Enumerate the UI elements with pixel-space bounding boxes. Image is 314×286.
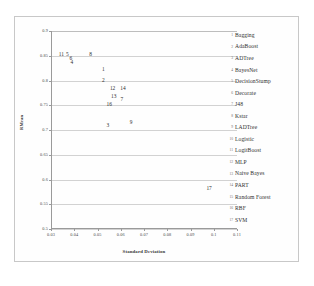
legend-item: 6Decorate [228,88,296,100]
gridline [51,204,237,205]
y-tick-mark [49,204,51,205]
legend-item: 2AdaBoost [228,42,296,54]
x-tick-mark [237,229,238,231]
y-tick-mark [49,180,51,181]
y-tick-label: 0.5 [42,227,48,231]
y-axis-line [51,31,52,229]
legend-key: 11 [228,149,235,153]
y-tick-label: 0.55 [40,202,48,206]
legend-item: 7J48 [228,99,296,111]
legend-item: 16RBF [228,203,296,215]
x-tick-mark [51,229,52,231]
data-point-label: 5 [66,52,69,57]
legend-label: Random Forest [235,195,271,201]
data-point-label: 7 [121,98,124,103]
legend-label: BayesNet [235,68,258,74]
x-tick-label: 0.04 [70,233,78,237]
gridline [51,130,237,131]
legend-label: Naive Bayes [235,171,265,177]
y-tick-label: 0.9 [42,29,48,33]
gridline [51,155,237,156]
legend-label: SVM [235,218,247,224]
legend-item: 15Random Forest [228,192,296,204]
legend-item: 17SVM [228,215,296,227]
x-tick-mark [167,229,168,231]
y-tick-mark [49,130,51,131]
legend-item: 1Bagging [228,30,296,42]
x-tick-label: 0.08 [163,233,171,237]
legend-item: 4BayesNet [228,65,296,77]
legend-key: 12 [228,161,235,165]
legend-label: LADTree [235,125,257,131]
y-axis-title: RMean [20,115,25,130]
legend: 1Bagging2AdaBoost3ADTree4BayesNet5Decisi… [228,30,296,226]
y-tick-mark [49,81,51,82]
data-point-label: 8 [89,53,92,58]
legend-label: Bagging [235,33,255,39]
y-tick-label: 0.8 [42,78,48,82]
data-point-label: 12 [110,87,115,92]
data-point-label: 4 [71,60,74,65]
x-tick-mark [98,229,99,231]
y-tick-label: 0.7 [42,128,48,132]
legend-key: 15 [228,196,235,200]
legend-item: 5DecisionStump [228,76,296,88]
data-point-label: 16 [106,102,111,107]
x-tick-mark [214,229,215,231]
legend-item: 12MLP [228,157,296,169]
x-tick-label: 0.05 [94,233,102,237]
legend-item: 10Logistic [228,134,296,146]
legend-item: 3ADTree [228,53,296,65]
gridline [51,180,237,181]
legend-key: 4 [228,69,235,73]
legend-key: 7 [228,103,235,107]
x-tick-mark [144,229,145,231]
legend-key: 3 [228,57,235,61]
legend-key: 8 [228,115,235,119]
data-point-label: 17 [206,187,211,192]
legend-key: 16 [228,207,235,211]
legend-key: 9 [228,126,235,130]
gridline [51,31,237,32]
legend-label: LogitBoost [235,148,261,154]
x-tick-label: 0.03 [47,233,55,237]
x-tick-mark [74,229,75,231]
y-tick-label: 0.65 [40,153,48,157]
legend-key: 17 [228,219,235,223]
legend-label: Decorate [235,91,256,97]
x-tick-mark [121,229,122,231]
data-point-label: 1 [102,67,105,72]
legend-key: 5 [228,80,235,84]
legend-item: 9LADTree [228,122,296,134]
legend-label: AdaBoost [235,44,258,50]
data-point-label: 2 [102,78,105,83]
data-point-label: 9 [130,120,133,125]
data-point-label: 13 [111,95,116,100]
legend-key: 10 [228,138,235,142]
y-tick-mark [49,105,51,106]
gridline [51,56,237,57]
x-tick-label: 0.09 [187,233,195,237]
legend-key: 6 [228,92,235,96]
y-tick-label: 0.6 [42,177,48,181]
x-tick-mark [191,229,192,231]
figure-root: 0.90.850.80.750.70.650.60.550.5 0.030.04… [0,0,314,286]
legend-key: 14 [228,184,235,188]
y-tick-mark [49,56,51,57]
legend-label: PART [235,183,249,189]
legend-label: MLP [235,160,247,166]
data-point-label: 14 [120,87,125,92]
gridline [51,81,237,82]
x-tick-label: 0.1 [211,233,217,237]
data-point-label: 3 [107,123,110,128]
x-tick-label: 0.11 [233,233,241,237]
gridline [51,105,237,106]
gridlines [51,31,237,229]
x-axis-title: Standard Deviation [51,249,237,254]
legend-label: ADTree [235,56,254,62]
x-tick-label: 0.06 [117,233,125,237]
legend-item: 14PART [228,180,296,192]
legend-key: 2 [228,46,235,50]
y-tick-label: 0.85 [40,54,48,58]
plot-area: 0.90.850.80.750.70.650.60.550.5 0.030.04… [51,31,237,229]
